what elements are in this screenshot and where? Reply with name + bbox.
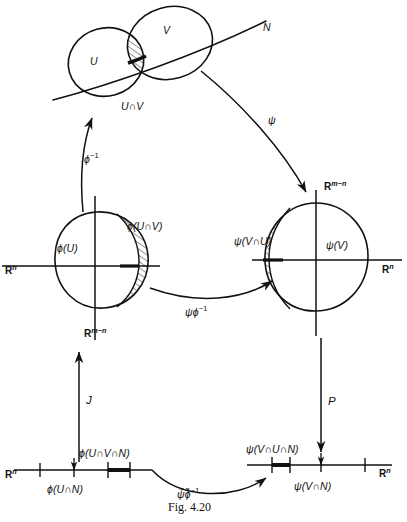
label-bottom-left-rn: Rn xyxy=(5,468,17,480)
label-right-axis-rmn: Rm−n xyxy=(324,180,347,192)
right-axis-rn-exp: n xyxy=(389,262,394,271)
label-map-psi-phi-inverse: ψϕ−1 xyxy=(185,305,207,317)
bottom-left-number-line xyxy=(14,458,152,478)
label-phi-uvn: ϕ(U∩V∩N) xyxy=(79,448,130,459)
label-right-axis-rn: Rn xyxy=(382,263,394,275)
label-phi-u-intersect-v: ϕ(U∩V) xyxy=(127,221,163,232)
arrow-psi xyxy=(201,71,306,192)
psi-phi-exponent: −1 xyxy=(199,304,208,313)
label-psi-vun: ψ(V∩U∩N) xyxy=(246,444,299,455)
caption-text: Fig. 4.20 xyxy=(168,500,211,514)
figure-4-20: U V N U∩V ϕ−1 ψ ϕ(U) ϕ(U∩V) Rn Rm−n ψ(V)… xyxy=(0,0,407,522)
label-manifold-n: N xyxy=(263,22,271,33)
bottom-left-rn-exp: n xyxy=(12,467,17,476)
left-coordinate-plane xyxy=(2,196,160,340)
label-left-axis-rn: Rn xyxy=(5,264,17,276)
label-phi-un: ϕ(U∩N) xyxy=(47,484,83,495)
diagram-canvas xyxy=(0,0,407,522)
label-left-axis-rmn: Rm−n xyxy=(84,327,107,339)
figure-caption: Fig. 4.20 xyxy=(168,500,211,515)
arrow-psi-phi-inverse xyxy=(150,281,272,298)
right-axis-rmn-exp: m−n xyxy=(331,179,346,188)
bottom-right-number-line xyxy=(247,453,392,473)
label-u-intersect-v: U∩V xyxy=(121,101,143,112)
label-psi-vn: ψ(V∩N) xyxy=(294,481,331,492)
bottom-transition-exponent: −1 xyxy=(191,486,200,495)
bottom-right-rn-exp: n xyxy=(386,466,391,475)
label-psi-v-intersect-u: ψ(V∩U) xyxy=(234,236,271,247)
label-map-j: J xyxy=(86,395,92,407)
label-phi-u: ϕ(U) xyxy=(57,243,78,254)
bottom-transition-symbol: ψ̃ϕ̃ xyxy=(177,488,191,500)
left-axis-rn-exp: n xyxy=(12,263,17,272)
right-coordinate-plane xyxy=(252,190,402,336)
arrow-bottom-transition xyxy=(152,470,266,494)
label-map-psi: ψ xyxy=(268,115,276,126)
label-map-p: P xyxy=(328,396,336,408)
arrow-phi-inverse xyxy=(82,118,92,212)
u-intersect-v-region xyxy=(110,10,190,110)
label-map-bottom-transition: ψ̃ϕ̃−1 xyxy=(177,487,199,499)
manifold-line-n xyxy=(53,21,266,100)
label-chart-v: V xyxy=(163,25,170,36)
psi-phi-symbol: ψϕ xyxy=(185,306,199,318)
label-psi-v: ψ(V) xyxy=(326,240,348,251)
left-axis-rmn-exp: m−n xyxy=(91,326,106,335)
label-map-phi-inverse: ϕ−1 xyxy=(84,152,99,164)
label-chart-u: U xyxy=(90,56,98,67)
phi-exponent: −1 xyxy=(90,151,99,160)
label-bottom-right-rn: Rn xyxy=(379,467,391,479)
